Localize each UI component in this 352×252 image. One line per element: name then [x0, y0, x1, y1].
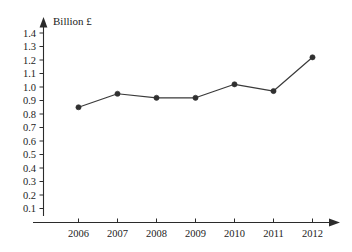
data-point-2010 — [232, 82, 237, 87]
data-point-2011 — [271, 88, 276, 93]
y-tick-label: 1.1 — [23, 68, 36, 79]
y-tick-label: 0.3 — [23, 176, 36, 187]
data-point-2007 — [115, 91, 120, 96]
x-tick-label: 2010 — [224, 228, 245, 239]
series-markers — [76, 55, 315, 110]
y-tick-label: 1.0 — [23, 82, 36, 93]
y-axis-arrow-icon — [40, 17, 48, 28]
x-axis-tick-labels: 2006 2007 2008 2009 2010 2011 2012 — [68, 228, 323, 239]
x-tick-label: 2008 — [146, 228, 167, 239]
data-point-2009 — [193, 95, 198, 100]
y-tick-label: 0.4 — [23, 163, 37, 174]
y-tick-label: 0.7 — [23, 122, 36, 133]
x-tick-label: 2011 — [263, 228, 284, 239]
x-tick-label: 2007 — [107, 228, 128, 239]
data-point-2008 — [154, 95, 159, 100]
y-axis-tick-labels: 1.4 1.3 1.2 1.1 1.0 0.9 0.8 0.7 0.6 0.5 … — [23, 28, 37, 215]
y-tick-label: 0.6 — [23, 136, 36, 147]
data-point-2012 — [310, 55, 315, 60]
x-axis-ticks — [79, 219, 313, 223]
y-tick-label: 0.1 — [23, 203, 36, 214]
y-axis-title: Billion £ — [53, 15, 92, 27]
chart-canvas: Billion £ 1.4 1.3 1.2 1.1 1.0 0.9 — [0, 0, 352, 252]
y-tick-label: 0.2 — [23, 190, 36, 201]
line-chart: Billion £ 1.4 1.3 1.2 1.1 1.0 0.9 — [0, 0, 352, 252]
y-tick-label: 0.9 — [23, 95, 36, 106]
x-tick-label: 2009 — [185, 228, 206, 239]
x-tick-label: 2012 — [302, 228, 323, 239]
y-tick-label: 0.5 — [23, 149, 36, 160]
data-point-2006 — [76, 105, 81, 110]
x-axis-arrow-icon — [329, 218, 340, 226]
y-tick-label: 1.4 — [23, 28, 37, 39]
y-tick-label: 0.8 — [23, 109, 36, 120]
x-tick-label: 2006 — [68, 228, 89, 239]
y-axis-ticks — [40, 33, 44, 209]
y-tick-label: 1.3 — [23, 41, 36, 52]
y-tick-label: 1.2 — [23, 55, 36, 66]
